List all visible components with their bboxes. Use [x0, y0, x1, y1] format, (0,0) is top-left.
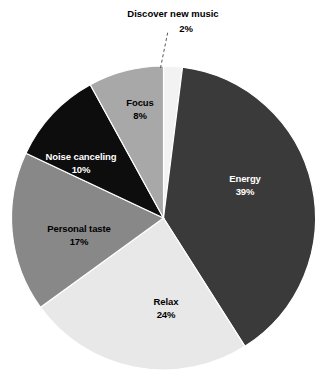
discover-new-music-leader-line — [161, 31, 169, 68]
slice-label-value: 2% — [139, 23, 233, 36]
slice-label-discover-new-music: Discover new music 2% — [113, 8, 233, 36]
slice-label-name: Discover new music — [127, 8, 218, 19]
pie-chart-canvas — [0, 0, 331, 387]
pie-slice-group — [12, 66, 316, 370]
pie-chart: Discover new music 2% Energy 39% Relax 2… — [0, 0, 331, 387]
